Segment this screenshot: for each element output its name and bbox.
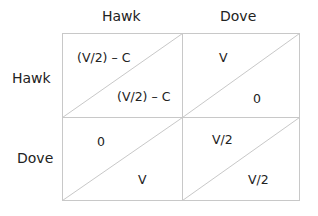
cell-hawk-hawk-col-payoff: (V/2) – C (117, 89, 170, 104)
cell-hawk-dove-row-payoff: V (219, 50, 228, 65)
row-header-hawk: Hawk (12, 70, 51, 86)
cell-dove-dove-row-payoff: V/2 (212, 132, 233, 147)
grid-lines (0, 0, 318, 216)
cell-dove-dove-col-payoff: V/2 (248, 172, 269, 187)
column-header-dove: Dove (220, 8, 256, 24)
column-header-hawk: Hawk (102, 8, 141, 24)
cell-dove-hawk-row-payoff: 0 (97, 134, 105, 149)
cell-dove-hawk-col-payoff: V (138, 172, 147, 187)
cell-hawk-dove-col-payoff: 0 (253, 91, 261, 106)
cell-hawk-hawk-row-payoff: (V/2) – C (77, 50, 130, 65)
row-header-dove: Dove (17, 150, 53, 166)
